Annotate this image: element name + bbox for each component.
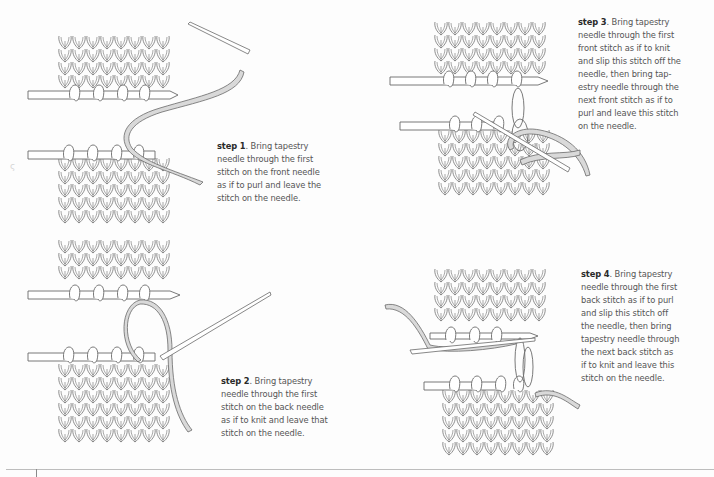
step-1-caption: step 1. Bring tapestry needle through th… xyxy=(217,140,357,205)
step-label: step 3 xyxy=(578,17,607,27)
back-fabric xyxy=(59,36,169,88)
front-fabric xyxy=(59,158,169,223)
tapestry-needle xyxy=(188,22,250,54)
step-label: step 1 xyxy=(217,141,246,151)
step-label: step 4 xyxy=(581,269,610,279)
step-4-caption: step 4. Bring tapestry needle through th… xyxy=(581,268,714,385)
step-2-caption: step 2. Bring tapestry needle through th… xyxy=(221,375,361,440)
step-label: step 2 xyxy=(221,376,250,386)
page-bottom-tick xyxy=(36,469,37,477)
margin-mark: ς xyxy=(10,162,15,171)
step-3-caption: step 3. Bring tapestry needle through th… xyxy=(578,16,714,133)
step-4-illustration xyxy=(380,255,580,465)
step-3-illustration xyxy=(390,0,590,220)
page-bottom-rule xyxy=(6,469,714,470)
step-1-illustration xyxy=(0,0,240,240)
